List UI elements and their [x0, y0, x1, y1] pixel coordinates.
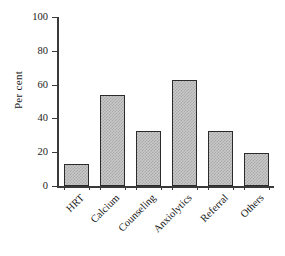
- x-tick-mark-2: [100, 186, 101, 190]
- x-tick-mark-10: [244, 186, 245, 190]
- bar-calcium: [100, 95, 125, 186]
- x-tick-label-anxiolytics: Anxiolytics: [151, 192, 193, 234]
- y-tick-label-20: 20: [18, 147, 48, 158]
- y-tick-label-40: 40: [18, 113, 48, 124]
- x-tick-mark-8: [208, 186, 209, 190]
- y-tick-mark-100: [52, 17, 57, 18]
- x-tick-mark-4: [136, 186, 137, 190]
- y-tick-label-60: 60: [18, 80, 48, 91]
- x-tick-label-hrt: HRT: [64, 192, 86, 214]
- y-tick-label-80: 80: [18, 46, 48, 57]
- bar-counseling: [136, 131, 161, 186]
- x-tick-mark-11: [269, 186, 270, 190]
- x-tick-mark-3: [125, 186, 126, 190]
- x-tick-mark-0: [64, 186, 65, 190]
- bar-hrt: [64, 164, 89, 186]
- y-tick-label-0: 0: [18, 181, 48, 192]
- x-tick-label-others: Others: [238, 192, 266, 220]
- y-tick-mark-80: [52, 51, 57, 52]
- x-tick-label-referral: Referral: [198, 192, 230, 224]
- y-tick-mark-20: [52, 152, 57, 153]
- y-tick-label-100: 100: [18, 12, 48, 23]
- bar-chart: Per cent 100 80 60 40 20 0 HRT Calcium C…: [0, 0, 285, 256]
- y-tick-mark-60: [52, 85, 57, 86]
- bar-anxiolytics: [172, 80, 197, 186]
- y-tick-mark-40: [52, 118, 57, 119]
- y-tick-mark-0: [52, 186, 57, 187]
- x-tick-label-calcium: Calcium: [89, 192, 122, 225]
- x-tick-mark-5: [161, 186, 162, 190]
- y-axis-line: [57, 17, 59, 187]
- bar-others: [244, 153, 269, 186]
- bar-referral: [208, 131, 233, 186]
- x-tick-mark-1: [89, 186, 90, 190]
- x-tick-mark-7: [197, 186, 198, 190]
- x-tick-mark-6: [172, 186, 173, 190]
- x-tick-mark-9: [233, 186, 234, 190]
